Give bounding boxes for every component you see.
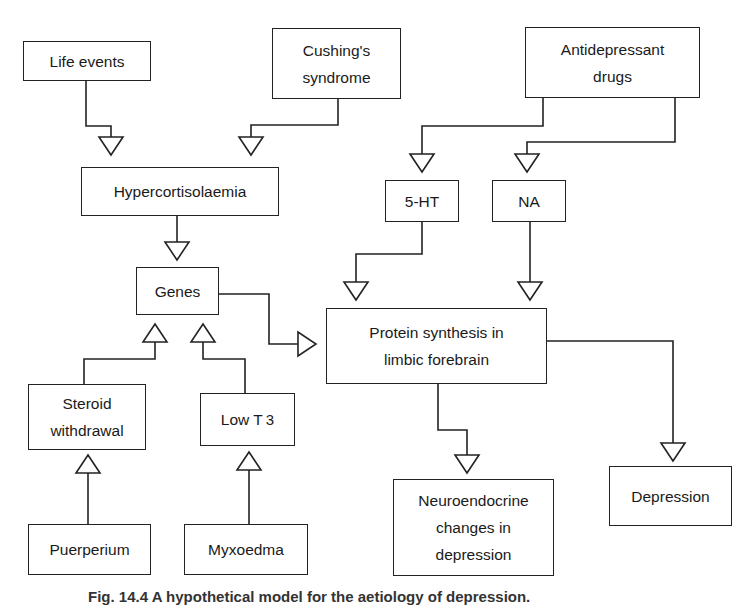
node-steroid-withdrawal: Steroid withdrawal: [28, 384, 146, 450]
node-label: Myxoedma: [208, 536, 284, 563]
node-label: Hypercortisolaemia: [114, 178, 247, 205]
node-myxoedma: Myxoedma: [184, 524, 308, 575]
node-label-subscript: 3: [266, 406, 274, 433]
node-protein-synthesis: Protein synthesis in limbic forebrain: [326, 308, 547, 384]
arrowhead-icon: [191, 324, 215, 342]
arrowhead-icon: [515, 154, 539, 172]
node-label: Steroid withdrawal: [50, 390, 123, 444]
connector-protein-synthesis-to-neuroendocrine: [438, 384, 467, 455]
node-low-t3: Low T3: [200, 393, 295, 446]
connector-genes-to-protein-synthesis: [219, 294, 299, 344]
node-cushings: Cushing's syndrome: [272, 28, 401, 99]
node-puerperium: Puerperium: [28, 524, 151, 575]
node-label: 5-HT: [405, 188, 439, 215]
node-genes: Genes: [136, 267, 219, 315]
node-label: Puerperium: [49, 536, 129, 563]
arrowhead-icon: [298, 332, 316, 356]
node-label: Cushing's syndrome: [302, 37, 370, 91]
arrowhead-icon: [410, 154, 434, 172]
connector-cushings-to-hypercortisolaemia: [251, 99, 338, 138]
connector-steroid-withdrawal-to-genes: [84, 342, 155, 384]
node-label: Antidepressant drugs: [561, 36, 664, 90]
arrowhead-icon: [518, 282, 542, 300]
arrowhead-icon: [661, 443, 685, 461]
connector-protein-synthesis-to-depression: [547, 341, 673, 443]
connector-low-t3-to-genes: [203, 342, 245, 393]
node-label: Neuroendocrine changes in depression: [418, 487, 528, 568]
node-five-ht: 5-HT: [385, 180, 459, 222]
node-depression: Depression: [609, 466, 732, 526]
node-na: NA: [492, 180, 566, 222]
arrowhead-icon: [237, 452, 261, 470]
connector-five-ht-to-protein-synthesis: [356, 222, 422, 282]
node-label: NA: [518, 188, 540, 215]
arrowhead-icon: [143, 324, 167, 342]
node-label: Genes: [155, 278, 201, 305]
node-life-events: Life events: [23, 41, 151, 81]
node-hypercortisolaemia: Hypercortisolaemia: [81, 167, 279, 216]
arrowhead-icon: [239, 137, 263, 155]
node-label: Life events: [50, 48, 125, 75]
arrowhead-icon: [99, 137, 123, 155]
connector-antidepressant-to-na: [527, 98, 675, 154]
connector-life-events-to-hypercortisolaemia: [86, 81, 111, 138]
node-label: Low T: [221, 406, 263, 433]
arrowhead-icon: [455, 455, 479, 473]
connector-antidepressant-to-five-ht: [422, 98, 543, 154]
arrowhead-icon: [76, 455, 100, 473]
node-neuroendocrine: Neuroendocrine changes in depression: [393, 479, 554, 576]
node-label: Depression: [631, 483, 709, 510]
arrowhead-icon: [344, 282, 368, 300]
node-antidepressant: Antidepressant drugs: [525, 27, 700, 98]
node-label: Protein synthesis in limbic forebrain: [369, 319, 503, 373]
arrowhead-icon: [165, 242, 189, 260]
figure-caption: Fig. 14.4 A hypothetical model for the a…: [88, 588, 530, 605]
